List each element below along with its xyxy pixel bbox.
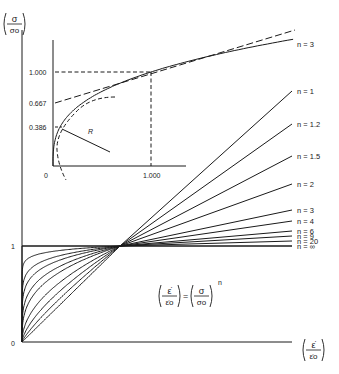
radius-label: R [88, 128, 93, 135]
inset-curve-label: n = 3 [297, 40, 314, 49]
curve-n-1 [22, 91, 292, 342]
curve-label: n = 1.2 [297, 120, 320, 129]
origin-label: 0 [11, 340, 15, 347]
inset-tangent-asymptote [55, 30, 295, 103]
curve-label: n = 4 [297, 217, 314, 226]
inset-origin-label: 0 [44, 172, 48, 179]
inset-osculating-circle [57, 97, 115, 180]
family-curves [22, 91, 292, 342]
curve-n-3 [22, 210, 292, 342]
strain-rate-power-law-diagram: n = 1n = 1.2n = 1.5n = 2n = 3n = 4n = 6n… [0, 0, 339, 374]
curve-n-4 [22, 221, 292, 342]
inset-y-tick-label: 0.386 [29, 124, 47, 131]
curve-label: n = ∞ [297, 242, 315, 251]
curve-n-6 [22, 231, 292, 342]
equation-exponent: n [218, 279, 222, 286]
svg-text:σ: σ [12, 14, 18, 24]
inset-y-tick-label: 0.667 [29, 100, 47, 107]
curve-n-2 [22, 184, 292, 342]
curve-n-20 [22, 241, 292, 342]
equation-equals: = [183, 291, 188, 301]
curve-n-1_5 [22, 156, 292, 342]
inset-x-tick-label: 1.000 [143, 172, 161, 179]
inset-y-tick-label: 1.000 [29, 69, 47, 76]
curve-n-∞ [22, 246, 292, 342]
equation-lhs: ε̇ε̇o [159, 285, 180, 307]
curve-label: n = 1 [297, 87, 314, 96]
svg-text:ε̇o: ε̇o [165, 298, 174, 307]
svg-text:σ: σ [199, 286, 205, 296]
svg-text:ε̇: ε̇ [311, 340, 316, 350]
inset-plot [53, 30, 295, 180]
x-axis-label: ε̇ε̇o [303, 339, 324, 361]
svg-text:σo: σo [197, 298, 207, 307]
svg-text:ε̇o: ε̇o [309, 352, 318, 361]
curve-label: n = 1.5 [297, 152, 320, 161]
main-plot [22, 30, 292, 342]
curve-label: n = 3 [297, 206, 314, 215]
unit-tick-label: 1 [11, 243, 15, 250]
svg-text:σo: σo [10, 26, 20, 35]
svg-text:ε̇: ε̇ [167, 286, 172, 296]
curve-label: n = 2 [297, 180, 314, 189]
equation-rhs: σσo [191, 285, 212, 307]
inset-radius-line [62, 129, 110, 152]
